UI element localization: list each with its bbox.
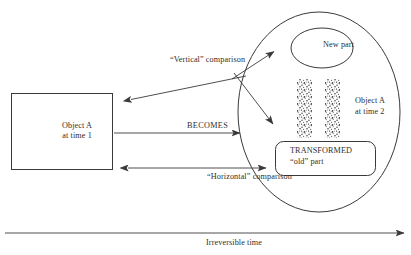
object-a-time2-line2: at time 2	[355, 107, 385, 118]
diagram-canvas: Object A at time 1 New part Object A at …	[0, 0, 411, 255]
vertical-comparison-label: “Vertical” comparison	[170, 55, 245, 65]
time-axis-label: Irreversible time	[206, 238, 262, 248]
horizontal-comparison-label: “Horizontal” comparison	[207, 172, 292, 182]
transformed-part-line1: TRANSFORMED	[290, 146, 352, 157]
transformed-part-line2: “old” part	[290, 157, 352, 168]
source-box-label: Object A at time 1	[62, 121, 92, 142]
source-box-line2: at time 1	[62, 131, 92, 141]
transformed-part-label: TRANSFORMED “old” part	[290, 146, 352, 168]
becomes-label: BECOMES	[187, 121, 228, 131]
object-a-time2-line1: Object A	[355, 96, 385, 107]
new-part-label: New part	[323, 40, 354, 50]
source-box-line1: Object A	[62, 121, 92, 131]
object-a-time2-label: Object A at time 2	[355, 96, 385, 117]
stipple-bar-right	[325, 79, 340, 138]
stipple-bar-left	[297, 79, 312, 138]
